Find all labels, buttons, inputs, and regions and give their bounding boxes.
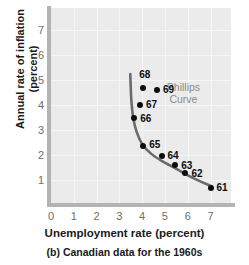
data-point-label: 64 [168,151,179,161]
x-tick-label: 0 [41,211,61,222]
x-tick-label: 4 [132,211,152,222]
x-tick-label: 3 [109,211,129,222]
x-axis-title: Unemployment rate (percent) [0,227,249,239]
x-tick-label: 2 [87,211,107,222]
data-point-label: 66 [140,114,151,124]
y-axis-title-line2: (percent) [27,45,39,92]
x-tick-label: 7 [201,211,221,222]
y-axis-title: Annual rate of inflation (percent) [14,0,40,144]
y-axis-line [47,6,51,207]
figure-caption: (b) Canadian data for the 1960s [0,246,249,258]
data-point [131,115,137,121]
x-axis-line [47,203,235,207]
x-tick-label: 6 [178,211,198,222]
y-tick-label: 1 [30,175,44,186]
x-tick-label: 1 [64,211,84,222]
data-point-label: 62 [191,169,202,179]
data-point-label: 61 [217,183,228,193]
data-point-label: 67 [146,100,157,110]
phillips-curve-figure: 1234567 01234567 Annual rate of inflatio… [0,0,249,265]
data-point-label: 63 [181,161,192,171]
data-point-label: 69 [163,85,174,95]
data-point [208,185,214,191]
data-point-label: 65 [149,140,160,150]
data-point [159,153,165,159]
x-axis-ticks: 01234567 [0,211,249,225]
data-point-label: 68 [139,70,150,80]
y-tick-label: 2 [30,150,44,161]
y-axis-title-line1: Annual rate of inflation [14,9,26,129]
x-tick-label: 5 [155,211,175,222]
